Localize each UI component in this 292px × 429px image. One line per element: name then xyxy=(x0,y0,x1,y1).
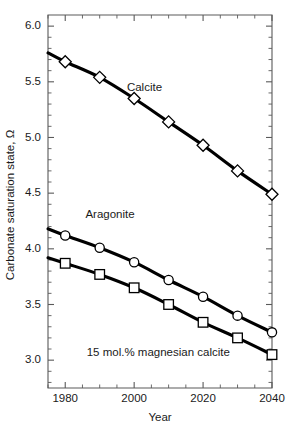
data-point-marker xyxy=(164,300,174,310)
y-tick-label: 6.0 xyxy=(25,19,41,31)
data-point-marker xyxy=(267,328,276,337)
y-axis-title: Carbonate saturation state, Ω xyxy=(4,129,16,280)
series-circle xyxy=(48,229,277,337)
data-point-marker xyxy=(59,56,71,68)
series-label-0: Calcite xyxy=(127,81,162,93)
x-tick-label: 2020 xyxy=(190,392,216,404)
data-point-marker xyxy=(95,270,105,280)
x-axis-title: Year xyxy=(148,411,171,423)
data-point-marker xyxy=(233,311,242,320)
y-axis-ticks xyxy=(48,26,272,382)
data-point-marker xyxy=(233,333,243,343)
data-point-marker xyxy=(164,275,173,284)
y-tick-label: 4.5 xyxy=(25,186,41,198)
x-tick-label: 2040 xyxy=(259,392,285,404)
series-diamond xyxy=(48,53,278,200)
series-label-1: Aragonite xyxy=(85,208,134,220)
series-label-2: 15 mol.% magnesian calcite xyxy=(87,346,230,358)
data-point-marker xyxy=(267,350,277,360)
x-tick-label: 1980 xyxy=(52,392,78,404)
y-tick-label: 3.0 xyxy=(25,353,41,365)
plot-frame xyxy=(48,15,272,388)
y-axis-tick-labels: 3.03.54.04.55.05.56.0 xyxy=(25,19,41,365)
data-point-marker xyxy=(61,231,70,240)
data-point-marker xyxy=(94,71,106,83)
y-tick-label: 4.0 xyxy=(25,242,41,254)
series-annotations: CalciteAragonite15 mol.% magnesian calci… xyxy=(85,81,229,358)
x-axis-ticks xyxy=(48,15,272,388)
x-axis-tick-labels: 1980200020202040 xyxy=(52,392,284,404)
data-series-group xyxy=(48,53,278,360)
data-point-marker xyxy=(95,243,104,252)
carbonate-saturation-line-chart: 3.03.54.04.55.05.56.0 1980200020202040 C… xyxy=(0,0,292,429)
data-point-marker xyxy=(198,318,208,328)
y-tick-label: 3.5 xyxy=(25,298,41,310)
y-tick-label: 5.0 xyxy=(25,131,41,143)
data-point-marker xyxy=(129,283,139,293)
x-tick-label: 2000 xyxy=(121,392,147,404)
chart-figure: 3.03.54.04.55.05.56.0 1980200020202040 C… xyxy=(0,0,292,429)
data-point-marker xyxy=(198,292,207,301)
series-square xyxy=(48,258,277,360)
data-point-marker xyxy=(60,258,70,268)
y-tick-label: 5.5 xyxy=(25,75,41,87)
data-point-marker xyxy=(130,258,139,267)
